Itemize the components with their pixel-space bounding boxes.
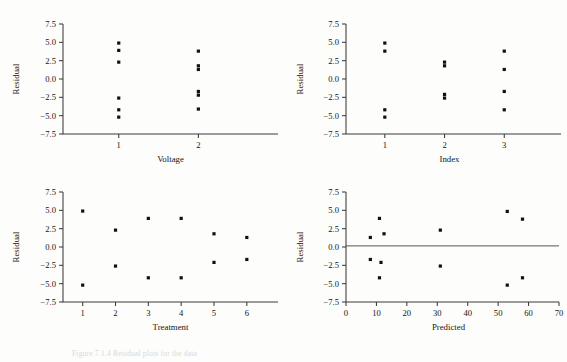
data-point: [443, 93, 446, 96]
panel-voltage: −7.5−5.0−2.50.02.55.07.512VoltageResidua…: [0, 0, 284, 181]
y-axis-label: Residual: [11, 63, 21, 94]
data-point: [378, 217, 381, 220]
y-tick-label: 2.5: [328, 224, 339, 234]
data-point: [117, 96, 120, 99]
y-tick-label: −5.0: [40, 111, 56, 121]
y-tick-label: −2.5: [40, 92, 56, 102]
data-point: [114, 264, 117, 267]
data-point: [503, 108, 506, 111]
data-point: [443, 96, 446, 99]
x-tick-label: 10: [372, 308, 381, 318]
y-tick-label: 5.0: [328, 205, 339, 215]
x-tick-label: 1: [81, 308, 85, 318]
x-tick-label: 2: [442, 140, 446, 150]
data-point: [378, 276, 381, 279]
data-point: [197, 90, 200, 93]
figure-caption: Figure 7.1.4 Residual plots for the data: [72, 349, 492, 358]
y-tick-label: 7.5: [45, 19, 56, 29]
data-point: [212, 232, 215, 235]
data-point: [439, 229, 442, 232]
data-point: [439, 264, 442, 267]
data-point: [114, 229, 117, 232]
data-point: [197, 64, 200, 67]
x-tick-label: 4: [179, 308, 184, 318]
panel-treatment: −7.5−5.0−2.50.02.55.07.5123456TreatmentR…: [0, 172, 284, 362]
y-tick-label: 2.5: [45, 224, 56, 234]
y-tick-label: 5.0: [45, 205, 56, 215]
data-point: [383, 108, 386, 111]
y-tick-label: −7.5: [323, 297, 339, 307]
data-point: [521, 218, 524, 221]
y-tick-label: 5.0: [45, 37, 56, 47]
data-point: [506, 210, 509, 213]
x-tick-label: 70: [555, 308, 564, 318]
x-tick-label: 30: [433, 308, 442, 318]
data-point: [506, 284, 509, 287]
y-tick-label: 0.0: [45, 242, 56, 252]
x-tick-label: 6: [245, 308, 250, 318]
data-point: [81, 284, 84, 287]
y-tick-label: −2.5: [40, 260, 56, 270]
y-tick-label: −5.0: [323, 279, 339, 289]
panel-index-svg: −7.5−5.0−2.50.02.55.07.5123IndexResidual: [284, 0, 567, 181]
y-axis-label: Residual: [295, 231, 305, 262]
data-point: [383, 116, 386, 119]
data-point: [245, 258, 248, 261]
y-tick-label: 2.5: [45, 56, 56, 66]
data-point: [117, 108, 120, 111]
panel-predicted: −7.5−5.0−2.50.02.55.07.5010203040506070P…: [284, 172, 567, 362]
data-point: [197, 68, 200, 71]
y-tick-label: 0.0: [328, 74, 339, 84]
x-tick-label: 0: [344, 308, 348, 318]
data-point: [180, 217, 183, 220]
y-tick-label: −2.5: [323, 260, 339, 270]
x-tick-label: 2: [113, 308, 117, 318]
data-point: [443, 64, 446, 67]
x-tick-label: 60: [524, 308, 533, 318]
data-point: [379, 261, 382, 264]
y-tick-label: −7.5: [323, 129, 339, 139]
data-point: [147, 217, 150, 220]
data-point: [521, 276, 524, 279]
data-point: [503, 90, 506, 93]
data-point: [443, 61, 446, 64]
y-tick-label: −5.0: [40, 279, 56, 289]
data-point: [117, 49, 120, 52]
y-axis-label: Residual: [295, 63, 305, 94]
x-tick-label: 1: [383, 140, 387, 150]
x-axis-label: Treatment: [153, 322, 189, 332]
panel-treatment-svg: −7.5−5.0−2.50.02.55.07.5123456TreatmentR…: [0, 172, 284, 362]
data-point: [197, 94, 200, 97]
data-point: [147, 276, 150, 279]
y-tick-label: 7.5: [328, 19, 339, 29]
data-point: [117, 61, 120, 64]
x-axis-label: Predicted: [432, 322, 466, 332]
x-tick-label: 40: [463, 308, 472, 318]
x-tick-label: 2: [196, 140, 200, 150]
y-tick-label: 7.5: [328, 187, 339, 197]
panel-predicted-svg: −7.5−5.0−2.50.02.55.07.5010203040506070P…: [284, 172, 567, 362]
y-tick-label: −7.5: [40, 297, 56, 307]
x-axis-label: Index: [439, 154, 460, 164]
data-point: [503, 68, 506, 71]
data-point: [245, 236, 248, 239]
data-point: [382, 232, 385, 235]
panel-index: −7.5−5.0−2.50.02.55.07.5123IndexResidual: [284, 0, 567, 181]
x-axis-label: Voltage: [157, 154, 184, 164]
data-point: [197, 50, 200, 53]
y-tick-label: 7.5: [45, 187, 56, 197]
x-tick-label: 3: [502, 140, 506, 150]
y-tick-label: 0.0: [45, 74, 56, 84]
y-tick-label: 0.0: [328, 242, 339, 252]
x-tick-label: 3: [146, 308, 150, 318]
data-point: [383, 50, 386, 53]
x-tick-label: 1: [117, 140, 121, 150]
data-point: [212, 261, 215, 264]
data-point: [369, 236, 372, 239]
data-point: [383, 41, 386, 44]
x-tick-label: 50: [494, 308, 503, 318]
x-tick-label: 20: [403, 308, 412, 318]
y-tick-label: −7.5: [40, 129, 56, 139]
y-axis-label: Residual: [11, 231, 21, 262]
data-point: [180, 276, 183, 279]
